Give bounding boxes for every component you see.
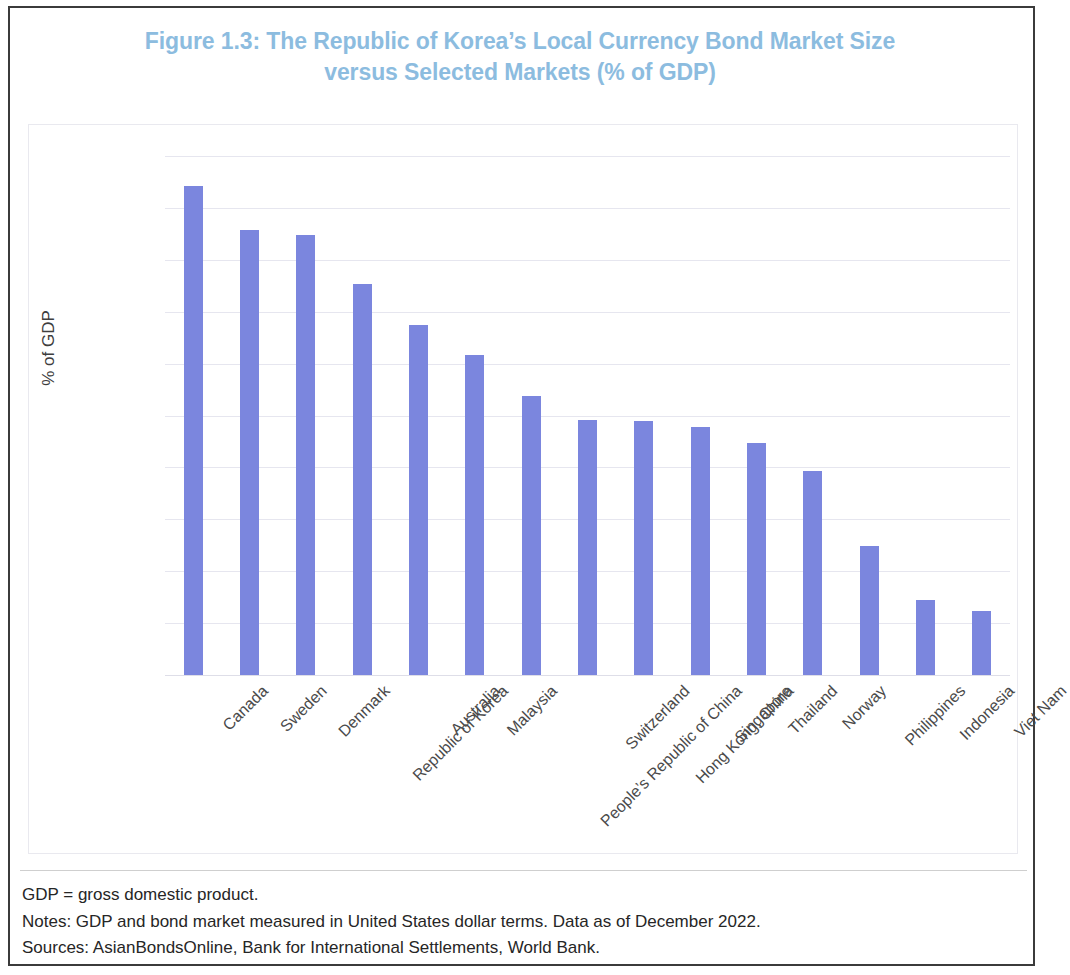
footnote-notes: Notes: GDP and bond market measured in U… [22,909,1022,936]
figure-title-line-2: versus Selected Markets (% of GDP) [70,57,970,88]
bar-slot [165,156,221,675]
x-axis-tick-label: Norway [839,682,890,733]
bar[interactable] [803,471,822,675]
bar-slot [672,156,728,675]
y-axis-title: % of GDP [39,268,59,428]
figure-title: Figure 1.3: The Republic of Korea’s Loca… [70,26,970,88]
bar-slot [841,156,897,675]
x-axis-tick-labels: CanadaSwedenDenmarkRepublic of KoreaAust… [165,678,1010,848]
bar-slot [728,156,784,675]
x-axis-tick-label: Denmark [335,682,394,741]
bar[interactable] [972,611,991,675]
x-axis-tick-label: Canada [220,682,272,734]
x-axis-tick-label: Viet Nam [1011,682,1070,741]
bar-slot [559,156,615,675]
bar-slot [616,156,672,675]
bar[interactable] [916,600,935,675]
bar[interactable] [860,546,879,675]
figure-title-line-1: Figure 1.3: The Republic of Korea’s Loca… [70,26,970,57]
bar-slot [897,156,953,675]
x-axis-tick-label: Malaysia [503,682,560,739]
gridline [165,675,1010,676]
bar[interactable] [240,230,259,675]
bar-slot [278,156,334,675]
bar[interactable] [409,325,428,675]
bar-slot [503,156,559,675]
x-axis-tick-label: Philippines [902,682,969,749]
footnote-abbreviation: GDP = gross domestic product. [22,882,1022,909]
bar-slot [390,156,446,675]
figure-frame: Figure 1.3: The Republic of Korea’s Loca… [8,6,1035,966]
bar-slot [334,156,390,675]
bar[interactable] [522,396,541,675]
bar-slot [447,156,503,675]
bar-slot [221,156,277,675]
chart-bars [165,156,1010,675]
chart-plot-region: 0.0020.0040.0060.0080.00100.00120.00140.… [165,156,1010,675]
bar[interactable] [353,284,372,675]
footer-divider [20,870,1027,871]
bar[interactable] [184,186,203,675]
footnote-sources: Sources: AsianBondsOnline, Bank for Inte… [22,935,1022,962]
bar[interactable] [465,355,484,675]
bar[interactable] [634,421,653,675]
bar[interactable] [578,420,597,675]
bar[interactable] [691,427,710,675]
bar-slot [785,156,841,675]
bar-slot [954,156,1010,675]
bar[interactable] [296,235,315,675]
footnotes: GDP = gross domestic product. Notes: GDP… [22,882,1022,962]
bar[interactable] [747,443,766,675]
x-axis-tick-label: Sweden [276,682,330,736]
